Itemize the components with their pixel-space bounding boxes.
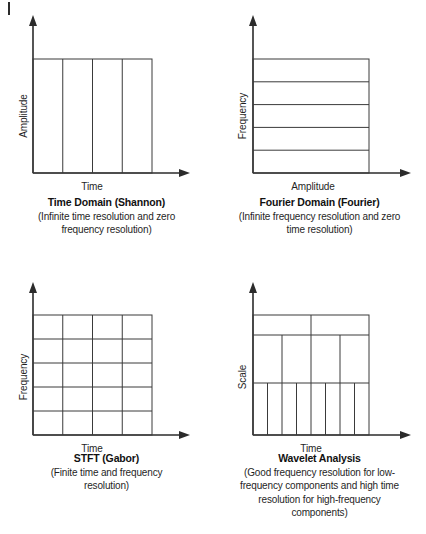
- caption-title: STFT (Gabor): [4, 452, 209, 466]
- wavelet-analysis-diagram: Scale Time: [213, 267, 426, 463]
- band-mid-frequency: [282, 335, 340, 383]
- caption-title: Wavelet Analysis: [217, 452, 422, 466]
- fourier-domain-diagram: Frequency Amplitude: [213, 0, 426, 196]
- tiling-cells: [33, 59, 152, 173]
- panel-wavelet-analysis: Scale Time Wavelet Analysis (Good freque…: [213, 267, 426, 534]
- caption-line-3: resolution for high-frequency: [217, 493, 422, 507]
- tiling-cells: [33, 315, 152, 435]
- x-axis-label: Amplitude: [291, 181, 335, 192]
- caption-title: Time Domain (Shannon): [4, 196, 209, 210]
- caption-stft-gabor: STFT (Gabor) (Finite time and frequency …: [4, 452, 209, 493]
- y-axis-label: Frequency: [237, 93, 248, 139]
- panel-stft-gabor: Frequency Time STFT (Gabor) (Finite time…: [0, 267, 213, 534]
- y-axis-label: Frequency: [18, 354, 29, 400]
- stft-gabor-diagram: Frequency Time: [0, 267, 213, 463]
- tiling-cells: [253, 315, 369, 435]
- caption-line-2: resolution): [4, 479, 209, 493]
- caption-line-1: (Good frequency resolution for low-: [217, 466, 422, 480]
- caption-line-2: frequency resolution): [4, 223, 209, 237]
- caption-line-2: time resolution): [217, 223, 422, 237]
- caption-line-4: components): [217, 506, 422, 520]
- figure-page: Amplitude Time Time Domain (Shannon) (In…: [0, 0, 426, 534]
- caption-wavelet-analysis: Wavelet Analysis (Good frequency resolut…: [217, 452, 422, 520]
- caption-line-1: (Infinite frequency resolution and zero: [217, 210, 422, 224]
- panel-fourier-domain: Frequency Amplitude Fourier Domain (Four…: [213, 0, 426, 267]
- tiling-cells: [253, 59, 369, 173]
- figure-fourier-domain: Frequency Amplitude: [213, 0, 426, 196]
- figure-time-domain: Amplitude Time: [0, 0, 213, 196]
- caption-line-1: (Infinite time resolution and zero: [4, 210, 209, 224]
- y-axis-label: Amplitude: [18, 94, 29, 138]
- band-high-frequency: [268, 383, 355, 435]
- y-axis-label: Scale: [237, 364, 248, 389]
- caption-title: Fourier Domain (Fourier): [217, 196, 422, 210]
- caption-fourier-domain: Fourier Domain (Fourier) (Infinite frequ…: [217, 196, 422, 237]
- time-domain-diagram: Amplitude Time: [0, 0, 213, 196]
- caption-line-1: (Finite time and frequency: [4, 466, 209, 480]
- x-axis-label: Time: [81, 181, 103, 192]
- caption-time-domain: Time Domain (Shannon) (Infinite time res…: [4, 196, 209, 237]
- figure-stft-gabor: Frequency Time: [0, 267, 213, 463]
- panel-time-domain: Amplitude Time Time Domain (Shannon) (In…: [0, 0, 213, 267]
- caption-line-2: frequency components and high time: [217, 479, 422, 493]
- figure-wavelet-analysis: Scale Time: [213, 267, 426, 463]
